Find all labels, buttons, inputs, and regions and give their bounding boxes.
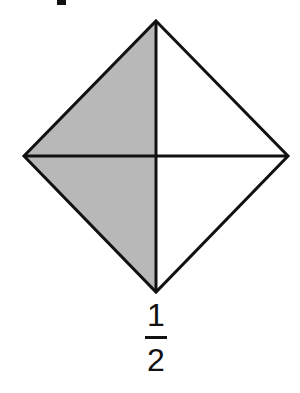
diamond-diagram — [0, 0, 300, 300]
fraction-label: 1 2 — [136, 298, 176, 377]
numerator: 1 — [136, 298, 176, 332]
fraction-bar — [145, 336, 167, 339]
denominator: 2 — [136, 343, 176, 377]
